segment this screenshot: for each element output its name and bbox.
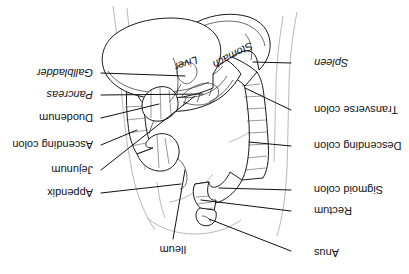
label-rectum: Rectum — [314, 205, 352, 217]
label-spleen: Spleen — [314, 57, 348, 69]
anatomy-illustration: Anus Rectum Sigmoid colon Descending col… — [0, 0, 409, 274]
torso-right-flank-outline — [277, 12, 297, 236]
label-descending-colon: Descending colon — [314, 140, 401, 152]
diagram-canvas: Anus Rectum Sigmoid colon Descending col… — [0, 0, 409, 274]
label-duodenum: Duodenum — [39, 112, 93, 124]
leader-line-anus — [209, 219, 291, 251]
label-gallbladder: Gallbladder — [35, 67, 93, 79]
label-transverse-colon: Transverse colon — [314, 104, 398, 116]
label-ascending-colon: Ascending colon — [12, 139, 93, 151]
diagram-rotated-group: Anus Rectum Sigmoid colon Descending col… — [0, 0, 409, 274]
label-ileum: Ileum — [160, 244, 187, 256]
torso-right-inner-outline — [274, 16, 283, 162]
leader-line-appendix — [101, 184, 181, 193]
label-appendix: Appendix — [47, 187, 93, 199]
label-anus: Anus — [314, 247, 340, 259]
label-pancreas: Pancreas — [46, 89, 93, 101]
leader-line-ileum — [173, 170, 185, 239]
label-jejunum: Jejunum — [51, 164, 93, 176]
label-sigmoid-colon: Sigmoid colon — [314, 184, 383, 196]
lower-abdomen-curve-outline — [157, 182, 165, 218]
